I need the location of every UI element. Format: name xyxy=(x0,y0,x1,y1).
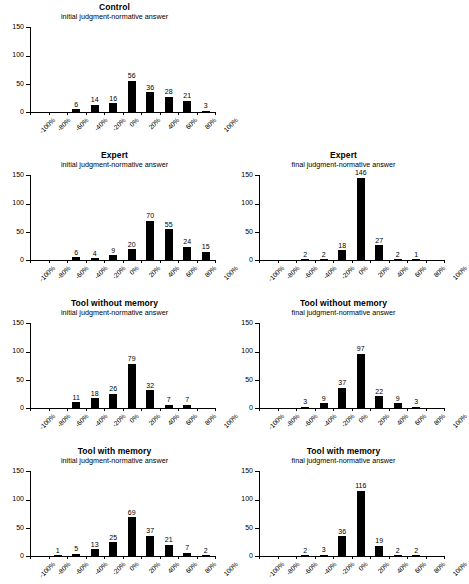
bar xyxy=(357,178,365,261)
x-axis-tick-label: -40% xyxy=(322,413,338,429)
x-axis-tick xyxy=(259,408,260,411)
x-axis-tick-label: 40% xyxy=(166,265,180,279)
bar-value-label: 79 xyxy=(120,355,144,362)
x-axis-tick-label: 80% xyxy=(203,265,217,279)
bar xyxy=(183,405,191,409)
bar-layer: 23361161922 xyxy=(259,471,444,556)
plot-area: 050100150-100%-80%-60%-40%-20%0%20%40%60… xyxy=(0,466,229,578)
x-axis-tick-label: 20% xyxy=(377,413,391,427)
bar-value-label: 21 xyxy=(157,536,181,543)
bar-value-label: 36 xyxy=(330,528,354,535)
bar xyxy=(91,398,99,408)
x-axis-tick-label: 40% xyxy=(395,413,409,427)
chart-subtitle: final judgment-normative answer xyxy=(229,457,458,465)
x-axis-tick xyxy=(86,260,87,263)
x-axis-tick xyxy=(86,112,87,115)
bar xyxy=(375,245,383,260)
bar xyxy=(412,555,420,556)
x-axis-tick xyxy=(104,408,105,411)
x-axis-tick-label: 0% xyxy=(128,561,139,572)
bar-value-label: 116 xyxy=(349,482,373,489)
x-axis-tick xyxy=(296,556,297,559)
x-axis-tick xyxy=(444,556,445,559)
x-axis-tick xyxy=(426,556,427,559)
x-axis-tick-label: 100% xyxy=(452,265,469,282)
x-axis-tick-label: -100% xyxy=(39,561,57,579)
bar xyxy=(146,536,154,557)
x-axis-tick xyxy=(352,260,353,263)
x-axis-tick xyxy=(370,260,371,263)
x-axis-tick-label: 80% xyxy=(432,265,446,279)
x-axis-tick xyxy=(315,556,316,559)
bar-value-label: 37 xyxy=(330,379,354,386)
bar-value-label: 3 xyxy=(194,102,218,109)
x-axis-tick xyxy=(197,112,198,115)
x-axis-tick xyxy=(123,408,124,411)
y-axis-tick-label: 150 xyxy=(12,319,24,326)
x-axis-tick-label: 0% xyxy=(128,413,139,424)
x-axis-tick-label: -80% xyxy=(56,117,72,133)
x-axis-tick xyxy=(30,260,31,263)
x-axis-tick-label: 80% xyxy=(432,413,446,427)
x-axis-tick xyxy=(30,112,31,115)
x-axis-tick-label: 0% xyxy=(128,117,139,128)
bar-value-label: 21 xyxy=(175,92,199,99)
bar-value-label: 69 xyxy=(120,509,144,516)
y-axis-tick-label: 50 xyxy=(16,228,24,235)
x-axis-tick xyxy=(407,408,408,411)
x-axis-tick-label: -20% xyxy=(112,117,128,133)
x-axis-tick xyxy=(141,260,142,263)
x-axis-tick xyxy=(315,260,316,263)
chart-title: Tool with memory xyxy=(229,447,458,456)
bar xyxy=(128,249,136,260)
bar xyxy=(165,405,173,409)
x-axis-tick-label: -100% xyxy=(268,413,286,431)
y-axis-tick-label: 150 xyxy=(12,171,24,178)
x-axis-tick xyxy=(141,408,142,411)
chart-title-block: Tool without memoryinitial judgment-norm… xyxy=(0,296,229,316)
bar xyxy=(320,555,328,557)
x-axis-tick-label: 20% xyxy=(148,117,162,131)
x-axis-tick-label: 0% xyxy=(128,265,139,276)
bar xyxy=(412,259,420,260)
bar xyxy=(128,81,136,113)
y-axis-tick-label: 100 xyxy=(12,51,24,58)
x-axis-tick xyxy=(407,556,408,559)
x-axis-tick-label: 40% xyxy=(166,413,180,427)
bar-value-label: 7 xyxy=(175,396,199,403)
x-axis-tick-label: 20% xyxy=(377,265,391,279)
x-axis-tick xyxy=(160,260,161,263)
x-axis-tick-label: -40% xyxy=(322,265,338,281)
bar xyxy=(109,542,117,556)
x-axis-tick-label: 60% xyxy=(185,413,199,427)
bar-value-label: 146 xyxy=(349,169,373,176)
plot-area: 050100150-100%-80%-60%-40%-20%0%20%40%60… xyxy=(0,170,229,282)
x-axis-tick xyxy=(197,408,198,411)
bar xyxy=(183,101,191,113)
bar xyxy=(394,555,402,556)
chart-panel-tool-with-memory-initial: Tool with memoryinitial judgment-normati… xyxy=(0,444,229,584)
x-axis-tick-label: 40% xyxy=(395,561,409,575)
bar xyxy=(320,403,328,408)
x-axis-tick xyxy=(389,408,390,411)
bar xyxy=(128,364,136,409)
bar xyxy=(375,396,383,408)
x-axis-tick-label: 60% xyxy=(414,561,428,575)
x-axis-tick-label: -20% xyxy=(341,413,357,429)
y-axis-tick-label: 0 xyxy=(249,256,253,263)
bar-layer: 3937972293 xyxy=(259,323,444,408)
bar xyxy=(165,97,173,113)
chart-subtitle: initial judgment-normative answer xyxy=(0,457,229,465)
bar xyxy=(301,555,309,556)
bar xyxy=(202,111,210,113)
x-axis-tick-label: 80% xyxy=(432,561,446,575)
x-axis-tick-label: -100% xyxy=(268,265,286,283)
x-axis-tick-label: -40% xyxy=(322,561,338,577)
x-axis-tick xyxy=(123,260,124,263)
x-axis-tick xyxy=(259,556,260,559)
x-axis-tick xyxy=(49,556,50,559)
x-axis-tick xyxy=(123,112,124,115)
bar-value-label: 2 xyxy=(312,251,336,258)
x-axis-tick-label: 60% xyxy=(185,561,199,575)
y-axis-tick-label: 50 xyxy=(16,524,24,531)
